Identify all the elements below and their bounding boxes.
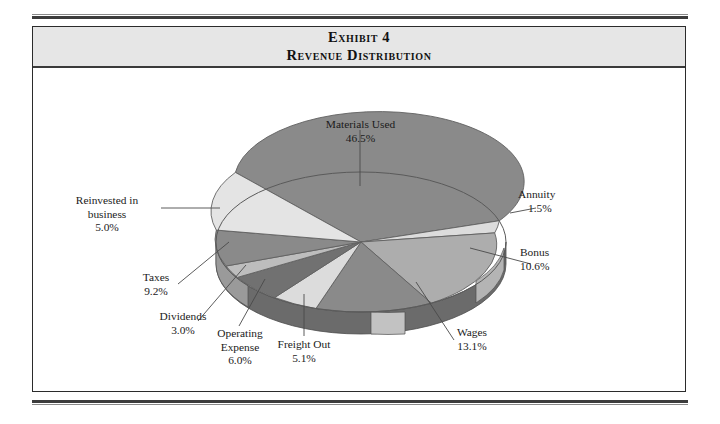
chart-area: Materials Used 46.5% Annuity 1.5% Bonus …	[33, 68, 685, 391]
exhibit-page: Exhibit 4 Revenue Distribution	[0, 0, 720, 424]
label-bonus: Bonus 10.6%	[520, 246, 640, 273]
exhibit-frame: Exhibit 4 Revenue Distribution	[32, 26, 686, 392]
label-materials-used: Materials Used 46.5%	[278, 118, 443, 145]
label-reinvested: Reinvested in business 5.0%	[51, 194, 163, 235]
label-dividends: Dividends 3.0%	[131, 310, 235, 337]
label-annuity: Annuity 1.5%	[518, 188, 638, 215]
label-wages: Wages 13.1%	[427, 326, 517, 353]
label-taxes: Taxes 9.2%	[117, 271, 195, 298]
bottom-rule	[32, 400, 688, 405]
exhibit-number: Exhibit 4	[328, 29, 390, 46]
exhibit-header: Exhibit 4 Revenue Distribution	[33, 27, 685, 68]
top-rule	[32, 14, 688, 19]
exhibit-title: Revenue Distribution	[287, 47, 432, 64]
pie-rim-freight-light	[371, 312, 405, 334]
